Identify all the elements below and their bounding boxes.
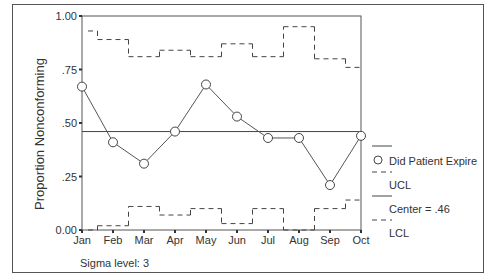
- control-chart: 0.00.25.50.751.00JanFebMarAprMayJunJulAu…: [0, 0, 489, 279]
- sigma-annotation: Sigma level: 3: [80, 257, 149, 269]
- y-axis-label: Proportion Nonconforming: [32, 58, 47, 210]
- legend-circle-icon: [374, 156, 382, 164]
- y-tick-label: .25: [62, 171, 77, 183]
- x-tick: [329, 230, 331, 233]
- x-tick-label: Feb: [104, 234, 123, 246]
- x-tick-label: May: [196, 234, 217, 246]
- x-tick-label: Jul: [261, 234, 275, 246]
- data-point: [140, 159, 149, 168]
- legend-ucl: UCL: [389, 179, 411, 191]
- x-tick-label: Sep: [320, 234, 340, 246]
- plot-area: 0.00.25.50.751.00JanFebMarAprMayJunJulAu…: [56, 10, 370, 246]
- legend-lcl: LCL: [389, 227, 409, 239]
- x-tick: [81, 230, 83, 233]
- x-tick: [143, 230, 145, 233]
- x-tick: [298, 230, 300, 233]
- y-tick: [79, 15, 82, 17]
- x-tick: [267, 230, 269, 233]
- x-tick-label: Jun: [228, 234, 246, 246]
- x-tick: [112, 230, 114, 233]
- data-point: [233, 112, 242, 121]
- x-tick: [360, 230, 362, 233]
- y-tick-label: .50: [62, 117, 77, 129]
- data-point: [264, 133, 273, 142]
- y-tick: [79, 122, 82, 124]
- data-point: [78, 82, 87, 91]
- data-point: [326, 181, 335, 190]
- legend-series: Did Patient Expire: [389, 155, 477, 167]
- legend-center: Center = .46: [389, 203, 450, 215]
- x-tick: [236, 230, 238, 233]
- y-tick: [79, 176, 82, 178]
- x-tick: [205, 230, 207, 233]
- x-tick-label: Oct: [352, 234, 369, 246]
- x-tick-label: Aug: [289, 234, 309, 246]
- legend: Did Patient Expire UCL Center = .46 LCL: [372, 146, 477, 239]
- x-tick-label: Apr: [166, 234, 183, 246]
- y-tick-label: .75: [62, 64, 77, 76]
- data-point: [357, 131, 366, 140]
- x-tick-label: Mar: [135, 234, 154, 246]
- series-line: [82, 84, 361, 185]
- y-tick-label: 1.00: [56, 10, 77, 22]
- data-point: [202, 80, 211, 89]
- data-point: [109, 138, 118, 147]
- data-point: [171, 127, 180, 136]
- data-point: [295, 133, 304, 142]
- x-tick-label: Jan: [73, 234, 91, 246]
- x-tick: [174, 230, 176, 233]
- y-tick: [79, 69, 82, 71]
- plot-border: [82, 16, 361, 230]
